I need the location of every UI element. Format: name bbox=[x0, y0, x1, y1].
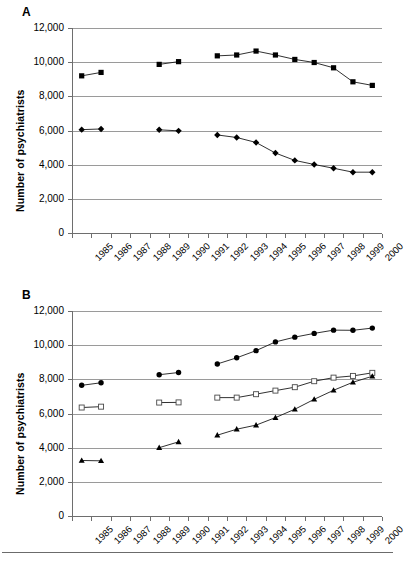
x-tick-label: 1988 bbox=[151, 524, 173, 546]
data-point-filled-diamond bbox=[253, 139, 259, 145]
series-open-square-series bbox=[79, 370, 375, 410]
data-point-filled-circle bbox=[331, 327, 336, 332]
data-point-filled-circle bbox=[176, 370, 181, 375]
data-point-filled-diamond bbox=[311, 161, 317, 167]
data-point-open-square bbox=[273, 388, 278, 393]
y-tick-label: 12,000 bbox=[10, 306, 64, 316]
x-tick-mark bbox=[266, 234, 267, 238]
series-segment bbox=[314, 390, 333, 399]
y-tick-label: 0 bbox=[10, 228, 64, 238]
x-tick-label: 1986 bbox=[112, 524, 134, 546]
x-tick-label: 1998 bbox=[345, 241, 367, 263]
x-tick-mark bbox=[246, 234, 247, 238]
data-point-filled-square bbox=[234, 52, 239, 57]
x-tick-mark bbox=[188, 517, 189, 521]
x-tick-label: 1997 bbox=[325, 241, 347, 263]
data-point-filled-diamond bbox=[156, 127, 162, 133]
series-segment bbox=[217, 55, 236, 56]
series-segment bbox=[237, 51, 256, 55]
data-point-open-square bbox=[254, 392, 259, 397]
x-tick-mark bbox=[363, 517, 364, 521]
data-point-filled-square bbox=[79, 73, 84, 78]
x-tick-mark bbox=[227, 234, 228, 238]
x-tick-mark bbox=[111, 517, 112, 521]
x-tick-mark bbox=[91, 517, 92, 521]
data-point-open-square bbox=[99, 404, 104, 409]
y-tick-label: 0 bbox=[10, 511, 64, 521]
series-segment bbox=[275, 337, 294, 342]
y-tick-label: 10,000 bbox=[10, 340, 64, 350]
data-point-filled-square bbox=[292, 57, 297, 62]
series-segment bbox=[295, 160, 314, 164]
panel-b-plot-area: 12,00010,0008,0006,0004,0002,00001985198… bbox=[72, 311, 382, 516]
data-point-filled-square bbox=[350, 79, 355, 84]
x-tick-label: 1997 bbox=[325, 524, 347, 546]
y-tick-label: 8,000 bbox=[10, 91, 64, 101]
panel-b-letter: B bbox=[22, 289, 31, 301]
data-point-filled-diamond bbox=[369, 169, 375, 175]
x-tick-mark bbox=[208, 234, 209, 238]
panel-a-plot-area: 12,00010,0008,0006,0004,0002,00001985198… bbox=[72, 28, 382, 233]
data-point-open-square bbox=[312, 379, 317, 384]
series-layer bbox=[72, 311, 382, 516]
data-point-open-square bbox=[79, 405, 84, 410]
data-point-filled-circle bbox=[234, 355, 239, 360]
data-point-filled-circle bbox=[98, 380, 103, 385]
data-point-filled-square bbox=[253, 48, 258, 53]
y-tick-label: 4,000 bbox=[10, 160, 64, 170]
series-segment bbox=[353, 328, 372, 330]
series-layer bbox=[72, 28, 382, 233]
data-point-open-square bbox=[234, 395, 239, 400]
series-segment bbox=[237, 138, 256, 143]
x-tick-label: 1990 bbox=[190, 524, 212, 546]
data-point-filled-square bbox=[157, 62, 162, 67]
x-tick-label: 2000 bbox=[384, 524, 406, 546]
data-point-filled-square bbox=[176, 59, 181, 64]
data-point-filled-square bbox=[98, 70, 103, 75]
y-tick-label: 12,000 bbox=[10, 23, 64, 33]
series-segment bbox=[256, 51, 275, 55]
x-tick-mark bbox=[305, 517, 306, 521]
data-point-open-square bbox=[215, 395, 220, 400]
x-tick-mark bbox=[72, 517, 73, 521]
series-segment bbox=[353, 82, 372, 86]
x-tick-label: 1989 bbox=[170, 524, 192, 546]
series-segment bbox=[314, 164, 333, 168]
data-point-filled-triangle bbox=[292, 406, 298, 411]
data-point-filled-triangle bbox=[272, 415, 278, 420]
series-segment bbox=[295, 333, 314, 337]
x-tick-label: 1989 bbox=[170, 241, 192, 263]
series-segment bbox=[275, 409, 294, 417]
x-tick-mark bbox=[285, 517, 286, 521]
data-point-filled-diamond bbox=[330, 165, 336, 171]
series-segment bbox=[82, 383, 101, 386]
series-segment bbox=[237, 351, 256, 358]
y-tick-label: 6,000 bbox=[10, 409, 64, 419]
x-tick-label: 1995 bbox=[287, 524, 309, 546]
data-point-filled-diamond bbox=[272, 150, 278, 156]
series-segment bbox=[217, 429, 236, 435]
y-tick-label: 4,000 bbox=[10, 443, 64, 453]
data-point-filled-square bbox=[370, 83, 375, 88]
data-point-open-square bbox=[331, 375, 336, 380]
x-tick-label: 1998 bbox=[345, 524, 367, 546]
x-tick-mark bbox=[91, 234, 92, 238]
data-point-filled-diamond bbox=[78, 126, 84, 132]
x-tick-label: 1985 bbox=[93, 241, 115, 263]
x-tick-label: 2000 bbox=[384, 241, 406, 263]
x-tick-mark bbox=[130, 234, 131, 238]
x-tick-label: 1992 bbox=[229, 524, 251, 546]
data-point-filled-circle bbox=[370, 325, 375, 330]
x-tick-mark bbox=[285, 234, 286, 238]
y-tick-label: 2,000 bbox=[10, 477, 64, 487]
x-tick-mark bbox=[72, 234, 73, 238]
series-segment bbox=[256, 418, 275, 426]
panel-a: A Number of psychiatrists 12,00010,0008,… bbox=[0, 0, 395, 283]
data-point-filled-circle bbox=[79, 383, 84, 388]
series-segment bbox=[256, 142, 275, 153]
x-tick-mark bbox=[343, 234, 344, 238]
series-triangle-series bbox=[79, 373, 376, 463]
x-tick-label: 1988 bbox=[151, 241, 173, 263]
data-point-open-square bbox=[157, 400, 162, 405]
x-tick-label: 1990 bbox=[190, 241, 212, 263]
